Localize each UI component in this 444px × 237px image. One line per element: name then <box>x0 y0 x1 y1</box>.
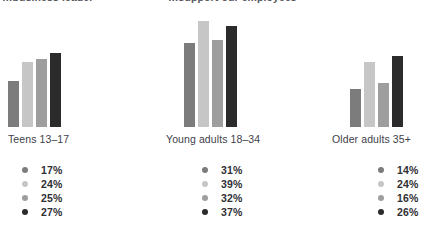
legend-item: 32% <box>202 191 243 205</box>
legend-dot-icon <box>22 195 28 201</box>
legend: 17%24%25%27% <box>22 163 63 219</box>
chart-group-panel: Teens 13–17 17%24%25%27% <box>0 0 160 237</box>
bar-group <box>8 18 61 127</box>
legend-dot-icon <box>22 167 28 173</box>
legend-item: 14% <box>378 163 419 177</box>
plot-area <box>8 18 148 127</box>
bar <box>50 53 61 127</box>
legend-value: 39% <box>221 178 243 190</box>
legend-item: 31% <box>202 163 243 177</box>
bar <box>226 26 237 127</box>
legend-item: 25% <box>22 191 63 205</box>
legend-dot-icon <box>22 181 28 187</box>
bar <box>212 40 223 127</box>
legend-dot-icon <box>202 181 208 187</box>
bar <box>378 83 389 127</box>
legend-value: 26% <box>397 206 419 218</box>
group-label: Teens 13–17 <box>8 133 69 145</box>
legend-item: 16% <box>378 191 419 205</box>
plot-area <box>184 18 324 127</box>
bar <box>22 62 33 127</box>
grouped-bar-chart: Teens 13–17 17%24%25%27% Young adults 18… <box>0 0 444 237</box>
legend-dot-icon <box>22 209 28 215</box>
legend-dot-icon <box>202 195 208 201</box>
chart-group-panel: Young adults 18–34 31%39%32%37% <box>158 0 326 237</box>
legend-dot-icon <box>378 167 384 173</box>
legend-dot-icon <box>202 167 208 173</box>
legend-value: 32% <box>221 192 243 204</box>
bar <box>350 89 361 127</box>
legend-item: 37% <box>202 205 243 219</box>
group-label: Older adults 35+ <box>332 133 411 145</box>
legend-value: 24% <box>397 178 419 190</box>
legend-value: 25% <box>41 192 63 204</box>
legend-item: 26% <box>378 205 419 219</box>
legend-value: 16% <box>397 192 419 204</box>
bar-group <box>350 18 403 127</box>
legend-value: 17% <box>41 164 63 176</box>
legend-dot-icon <box>378 181 384 187</box>
legend: 31%39%32%37% <box>202 163 243 219</box>
legend-item: 27% <box>22 205 63 219</box>
legend-dot-icon <box>378 195 384 201</box>
legend-value: 37% <box>221 206 243 218</box>
legend-item: 39% <box>202 177 243 191</box>
bar-group <box>184 18 237 127</box>
bar <box>392 56 403 127</box>
bar <box>198 21 209 127</box>
legend-item: 17% <box>22 163 63 177</box>
bar <box>184 43 195 127</box>
bar <box>364 62 375 127</box>
legend-dot-icon <box>378 209 384 215</box>
legend-value: 27% <box>41 206 63 218</box>
legend-dot-icon <box>202 209 208 215</box>
plot-area <box>350 18 444 127</box>
legend-item: 24% <box>22 177 63 191</box>
legend-value: 14% <box>397 164 419 176</box>
chart-group-panel: Older adults 35+ 14%24%16%26% <box>324 0 444 237</box>
legend-item: 24% <box>378 177 419 191</box>
bar <box>8 81 19 127</box>
bar <box>36 59 47 127</box>
legend-value: 31% <box>221 164 243 176</box>
group-label: Young adults 18–34 <box>166 133 260 145</box>
legend: 14%24%16%26% <box>378 163 419 219</box>
legend-value: 24% <box>41 178 63 190</box>
